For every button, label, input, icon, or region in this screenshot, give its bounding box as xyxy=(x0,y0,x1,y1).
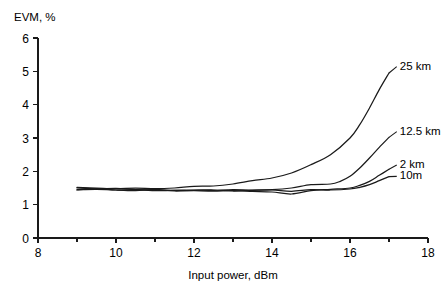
series-label-2-km: 2 km xyxy=(400,158,425,170)
x-axis-title: Input power, dBm xyxy=(188,269,278,281)
series-label-12-5-km: 12.5 km xyxy=(400,125,441,137)
data-series-group xyxy=(77,73,389,194)
y-tick-label: 5 xyxy=(22,65,29,79)
x-tick-label: 8 xyxy=(35,246,42,260)
y-tick-label: 2 xyxy=(22,165,29,179)
leader-line-25-km xyxy=(389,67,397,73)
x-tick-label: 16 xyxy=(343,246,357,260)
y-axis-title: EVM, % xyxy=(14,11,56,23)
y-tick-label: 4 xyxy=(22,98,29,112)
series-annotations-group: 25 km12.5 km2 km10m xyxy=(389,60,441,182)
x-tick-label: 12 xyxy=(187,246,201,260)
x-tick-label: 18 xyxy=(421,246,435,260)
chart-figure: EVM, % 0123456 81012141618 25 km12.5 km2… xyxy=(0,0,443,296)
y-tick-label: 3 xyxy=(22,132,29,146)
y-tick-label: 6 xyxy=(22,32,29,46)
y-tick-label: 0 xyxy=(22,232,29,246)
x-tick-label: 10 xyxy=(109,246,123,260)
x-axis-ticks-group: 81012141618 xyxy=(35,238,435,260)
x-tick-label: 14 xyxy=(265,246,279,260)
series-line-25-km xyxy=(77,73,389,189)
series-label-25-km: 25 km xyxy=(400,60,431,72)
leader-line-2-km xyxy=(389,165,397,169)
y-axis-title-group: EVM, % xyxy=(14,11,56,23)
x-axis-title-group: Input power, dBm xyxy=(188,269,278,281)
leader-line-12-5-km xyxy=(389,132,397,138)
y-axis-ticks-group: 0123456 xyxy=(22,32,38,246)
series-label-10m: 10m xyxy=(400,169,422,181)
y-tick-label: 1 xyxy=(22,198,29,212)
evm-vs-input-power-line-chart: EVM, % 0123456 81012141618 25 km12.5 km2… xyxy=(0,0,443,296)
axes-group xyxy=(38,38,428,238)
